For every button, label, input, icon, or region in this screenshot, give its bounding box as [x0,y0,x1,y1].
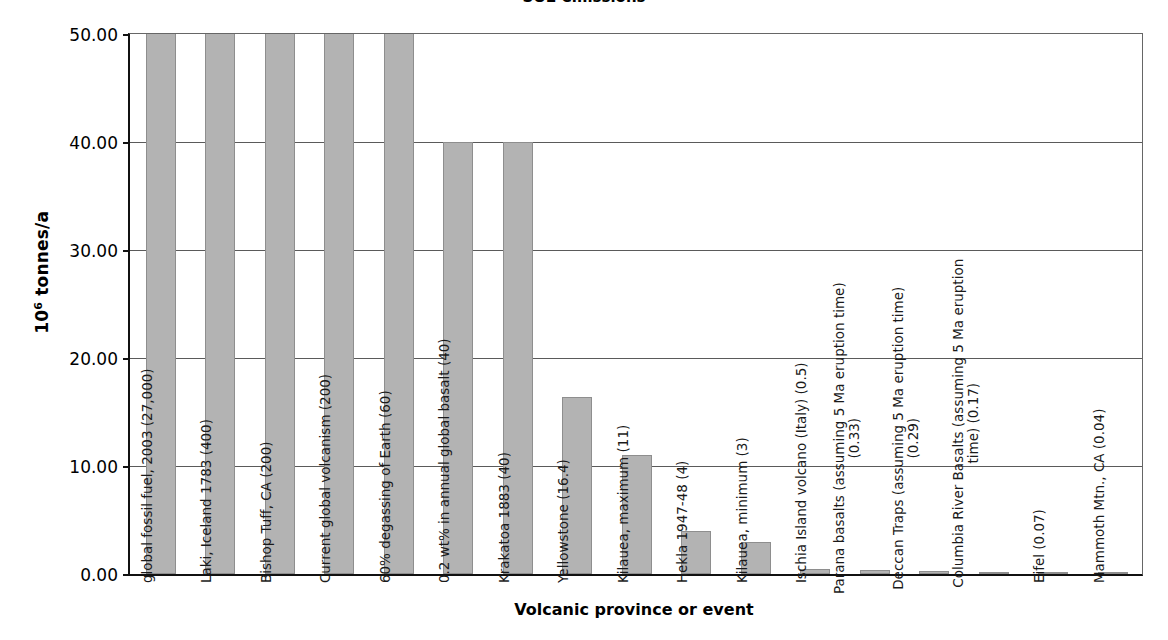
y-tick-mark-10 [123,466,130,468]
y-axis-title-exponent: 6 [32,302,45,310]
bar-label-kilauea-maximum: Kilauea, maximum (11) [616,425,631,583]
x-axis-title: Volcanic province or event [128,600,1140,619]
bar-deccan-traps[interactable] [919,571,949,574]
bar-label-global-fossil-fuel: global fossil fuel, 2003 (27,000) [140,368,155,583]
y-tick-label-0: 0.00 [40,565,118,585]
bar-label-ischia-island-volcano: Ischia Island volcano (Italy) (0.5) [794,362,809,583]
bar-label-parana-basalts: Parana basalts (assuming 5 Ma eruption t… [832,278,862,598]
bar-label-deccan-traps: Deccan Traps (assuming 5 Ma eruption tim… [891,278,921,598]
y-tick-mark-40 [123,142,130,144]
bar-label-yellowstone: Yellowstone (16.4) [556,459,571,583]
y-tick-label-30: 30.00 [40,241,118,261]
bar-label-bishop-tuff: Bishop Tuff, CA (200) [259,441,274,583]
y-tick-mark-20 [123,358,130,360]
plot-area: global fossil fuel, 2003 (27,000) Laki, … [128,33,1143,576]
y-tick-label-50: 50.00 [40,25,118,45]
bar-label-mammoth-mtn: Mammoth Mtn., CA (0.04) [1092,409,1107,584]
y-tick-mark-0 [123,574,130,576]
y-tick-label-20: 20.00 [40,349,118,369]
bar-chart: SO2 emissions 106 tonnes/a 50.00 40.00 3… [0,0,1168,640]
bar-label-current-global-volcanism: Current global volcanism (200) [318,374,333,583]
bar-parana-basalts[interactable] [860,570,890,574]
bar-label-60-degassing-earth: 60% degassing of Earth (60) [378,390,393,583]
y-tick-label-40: 40.00 [40,133,118,153]
bar-label-eifel: Eifel (0.07) [1032,509,1047,583]
bar-label-krakatoa-1883: Krakatoa 1883 (40) [497,452,512,583]
bar-label-0-2-wt-annual-global-basalt: 0.2 wt% in annual global basalt (40) [437,338,452,583]
y-tick-mark-50 [123,34,130,36]
chart-title: SO2 emissions [0,0,1168,2]
bar-columbia-river-basalts[interactable] [979,572,1009,574]
bar-label-columbia-river-basalts: Columbia River Basalts (assuming 5 Ma er… [951,248,981,598]
bar-label-kilauea-minimum: Kilauea, minimum (3) [735,437,750,583]
y-tick-label-10: 10.00 [40,457,118,477]
bar-label-hekla-1947-48: Hekla 1947-48 (4) [675,461,690,583]
y-axis-title: 106 tonnes/a [32,172,53,372]
y-tick-mark-30 [123,250,130,252]
bar-label-laki-iceland: Laki, Iceland 1783 (400) [199,419,214,583]
y-axis-title-base: 10 [32,310,52,334]
